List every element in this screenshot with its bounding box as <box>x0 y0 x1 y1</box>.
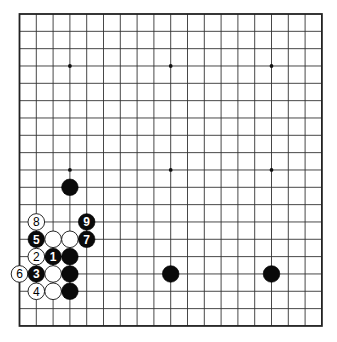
white-stone[interactable]: 2 <box>28 248 45 265</box>
star-point-icon <box>169 168 173 172</box>
move-number-label: 4 <box>33 285 40 299</box>
move-number-label: 8 <box>33 215 40 229</box>
black-stone[interactable]: 9 <box>78 214 95 231</box>
white-stone-icon <box>45 283 62 300</box>
white-stone[interactable] <box>45 283 62 300</box>
move-number-label: 9 <box>83 215 90 229</box>
black-stone[interactable]: 7 <box>78 231 95 248</box>
star-point-icon <box>270 64 274 68</box>
black-stone[interactable]: 1 <box>45 248 62 265</box>
black-stone[interactable] <box>62 248 79 265</box>
star-point-icon <box>68 64 72 68</box>
move-number-label: 2 <box>33 250 40 264</box>
black-stone-icon <box>162 266 179 283</box>
white-stone[interactable]: 8 <box>28 214 45 231</box>
black-stone-icon <box>62 179 79 196</box>
black-stone[interactable]: 5 <box>28 231 45 248</box>
white-stone[interactable]: 4 <box>28 283 45 300</box>
black-stone-icon <box>62 266 79 283</box>
white-stone[interactable] <box>45 231 62 248</box>
move-number-label: 3 <box>33 267 40 281</box>
star-point-icon <box>68 168 72 172</box>
star-point-icon <box>169 64 173 68</box>
white-stone-icon <box>45 231 62 248</box>
black-stone[interactable] <box>62 179 79 196</box>
move-number-label: 1 <box>50 250 57 264</box>
black-stone[interactable] <box>263 266 280 283</box>
black-stone[interactable]: 3 <box>28 266 45 283</box>
white-stone[interactable]: 6 <box>11 266 28 283</box>
white-stone-icon <box>45 266 62 283</box>
move-number-label: 5 <box>33 233 40 247</box>
star-point-icon <box>270 168 274 172</box>
move-number-label: 7 <box>83 233 90 247</box>
black-stone[interactable] <box>62 283 79 300</box>
white-stone-icon <box>62 231 79 248</box>
go-board[interactable]: 895721634 <box>0 0 337 342</box>
move-number-label: 6 <box>16 267 23 281</box>
white-stone[interactable] <box>45 266 62 283</box>
black-stone-icon <box>62 248 79 265</box>
black-stone-icon <box>263 266 280 283</box>
white-stone[interactable] <box>62 231 79 248</box>
black-stone[interactable] <box>62 266 79 283</box>
black-stone[interactable] <box>162 266 179 283</box>
black-stone-icon <box>62 283 79 300</box>
